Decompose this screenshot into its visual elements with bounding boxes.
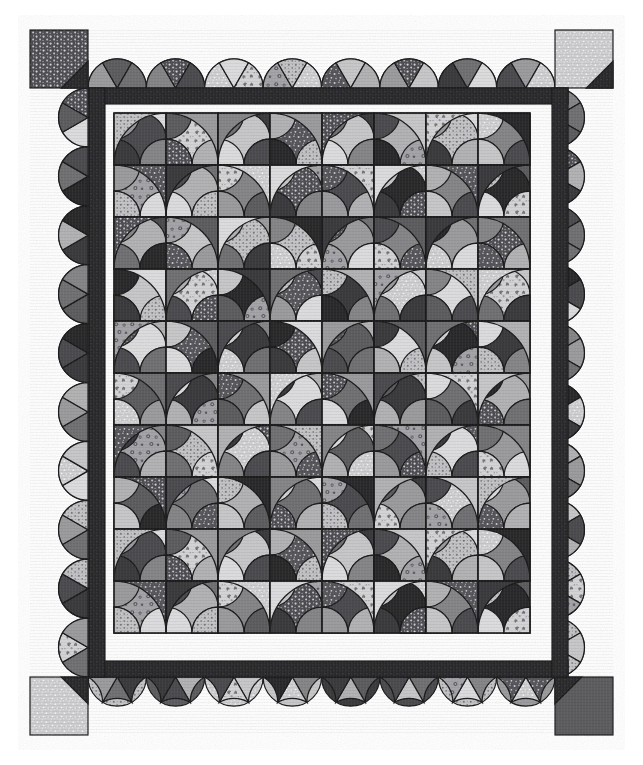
quilt-block <box>270 581 322 633</box>
quilt-block <box>322 529 374 581</box>
quilt-block <box>426 581 478 633</box>
corner-square-top-left <box>30 30 88 88</box>
quilt-block <box>374 165 426 217</box>
quilt-block <box>270 321 322 373</box>
quilt-block <box>270 373 322 425</box>
quilt-block <box>478 373 530 425</box>
quilt-block <box>478 581 530 633</box>
quilt-block <box>426 165 478 217</box>
quilt-block <box>322 113 374 165</box>
quilt-block <box>426 373 478 425</box>
sashing-left <box>89 88 105 677</box>
quilt-block <box>270 477 322 529</box>
quilt-block <box>478 321 530 373</box>
quilt-block <box>374 581 426 633</box>
quilt-block <box>166 425 218 477</box>
quilt-block <box>478 425 530 477</box>
quilt-block <box>426 269 478 321</box>
quilt-block <box>114 373 166 425</box>
quilt-block <box>374 529 426 581</box>
corner-square-top-right <box>555 30 613 88</box>
quilt-block <box>218 373 270 425</box>
quilt-block <box>426 217 478 269</box>
quilt-block <box>166 217 218 269</box>
quilt-block <box>218 477 270 529</box>
quilt-block <box>114 425 166 477</box>
quilt-block <box>166 321 218 373</box>
quilt-block <box>218 321 270 373</box>
quilt-block <box>114 217 166 269</box>
quilt-block <box>270 165 322 217</box>
quilt-block <box>114 581 166 633</box>
quilt-block <box>218 113 270 165</box>
quilt-block <box>374 321 426 373</box>
sashing-bottom <box>89 661 568 677</box>
corner-square-bottom-left <box>30 677 88 735</box>
quilt-block <box>322 581 374 633</box>
quilt-block <box>114 113 166 165</box>
quilt-block <box>218 581 270 633</box>
quilt-block <box>374 477 426 529</box>
quilt-block <box>426 113 478 165</box>
quilt-artwork: Winding Ways Patchwork Quilt A grayscale… <box>0 0 643 765</box>
quilt-block <box>218 269 270 321</box>
corner-square-bottom-right <box>555 677 613 735</box>
quilt-block <box>166 165 218 217</box>
quilt-block <box>478 529 530 581</box>
quilt-block <box>114 529 166 581</box>
quilt-block <box>478 217 530 269</box>
sashing-top <box>89 88 568 104</box>
quilt-block <box>218 529 270 581</box>
quilt-block <box>478 477 530 529</box>
quilt-block <box>166 373 218 425</box>
quilt-block <box>374 269 426 321</box>
quilt-block <box>322 477 374 529</box>
quilt-block <box>478 165 530 217</box>
quilt-block <box>374 113 426 165</box>
quilt-block <box>322 425 374 477</box>
quilt-block <box>270 529 322 581</box>
quilt-block <box>322 321 374 373</box>
quilt-block <box>478 113 530 165</box>
quilt-block <box>374 425 426 477</box>
quilt-block <box>218 425 270 477</box>
quilt-block <box>426 529 478 581</box>
quilt-block <box>374 373 426 425</box>
quilt-block <box>322 217 374 269</box>
quilt-block <box>270 113 322 165</box>
quilt-block <box>166 529 218 581</box>
quilt-block <box>270 425 322 477</box>
quilt-block <box>218 165 270 217</box>
quilt-block <box>426 477 478 529</box>
quilt-block <box>322 165 374 217</box>
inner-block-field <box>114 113 530 633</box>
quilt-block <box>166 477 218 529</box>
sashing-right <box>552 88 568 677</box>
quilt-block <box>270 269 322 321</box>
quilt-block <box>218 217 270 269</box>
quilt-block <box>270 217 322 269</box>
quilt-block <box>322 373 374 425</box>
quilt-block <box>114 477 166 529</box>
quilt-block <box>166 581 218 633</box>
quilt-canvas: Winding Ways Patchwork Quilt A grayscale… <box>0 0 643 765</box>
quilt-block <box>426 321 478 373</box>
quilt-block <box>166 113 218 165</box>
quilt-block <box>114 269 166 321</box>
quilt-block <box>322 269 374 321</box>
quilt-block <box>114 321 166 373</box>
quilt-block <box>374 217 426 269</box>
quilt-block <box>166 269 218 321</box>
quilt-block <box>426 425 478 477</box>
quilt-block <box>478 269 530 321</box>
quilt-block <box>114 165 166 217</box>
